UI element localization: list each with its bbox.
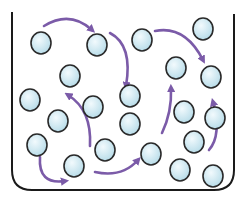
particle — [120, 113, 140, 135]
particle — [205, 107, 225, 129]
motion-arrow-icon — [40, 157, 65, 182]
particle — [203, 165, 223, 187]
particle — [31, 32, 51, 54]
particle — [193, 18, 213, 40]
particle — [27, 134, 47, 156]
particle — [87, 34, 107, 56]
motion-arrow-icon — [44, 19, 92, 30]
particle — [132, 29, 152, 51]
particle-diagram — [0, 0, 241, 197]
motion-arrow-icon — [95, 160, 138, 174]
particle — [83, 96, 103, 118]
particle — [141, 143, 161, 165]
particle — [201, 66, 221, 88]
particle — [60, 65, 80, 87]
particle — [95, 139, 115, 161]
particle — [120, 85, 140, 107]
particle — [166, 57, 186, 79]
particle — [174, 101, 194, 123]
motion-arrow-icon — [110, 33, 128, 86]
particle — [48, 110, 68, 132]
motion-arrow-icon — [162, 88, 171, 133]
particle — [64, 155, 84, 177]
particle — [170, 159, 190, 181]
particle — [184, 131, 204, 153]
particle — [20, 89, 40, 111]
